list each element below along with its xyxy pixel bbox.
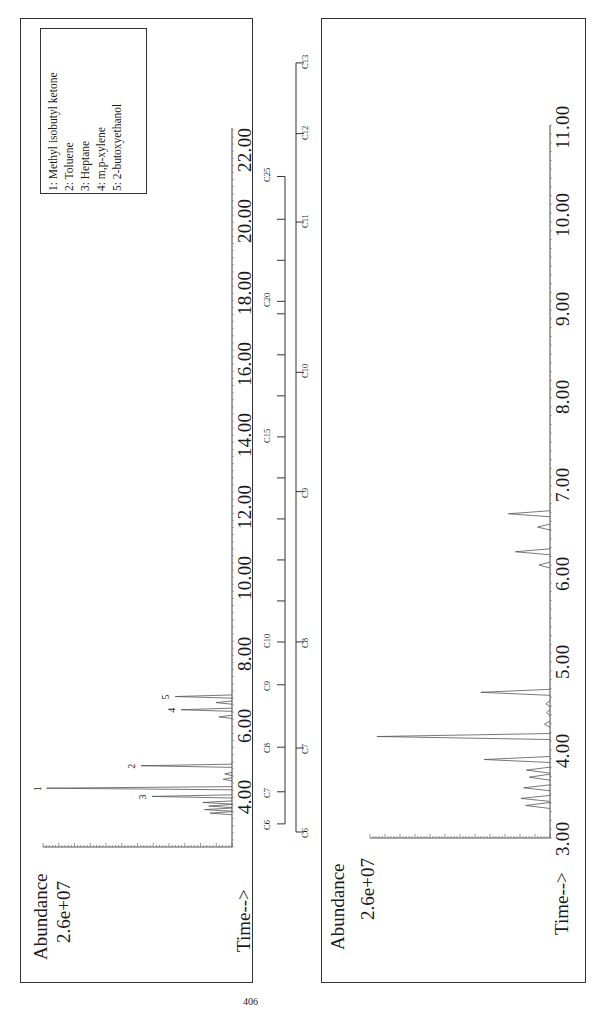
svg-text:5: 5: [160, 695, 171, 700]
svg-text:4: 4: [166, 708, 177, 713]
svg-text:3: 3: [137, 794, 148, 799]
svg-text:2: 2: [126, 764, 137, 769]
svg-text:1: 1: [32, 786, 43, 791]
chromatogram-traces: 31245: [0, 0, 609, 1020]
page-number: 406: [243, 996, 258, 1007]
